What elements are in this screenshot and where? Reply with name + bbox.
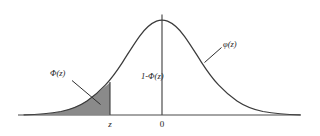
label-cdf-phi-z: Φ(z) [50, 68, 66, 78]
normal-distribution-figure: Φ(z) 1-Φ(z) φ(z) z 0 [0, 0, 320, 136]
phi-pdf-leader-line [205, 48, 222, 63]
tick-label-zero: 0 [160, 119, 165, 129]
tick-label-z: z [107, 119, 112, 129]
distribution-plot: Φ(z) 1-Φ(z) φ(z) z 0 [0, 0, 320, 136]
label-one-minus-phi-z: 1-Φ(z) [141, 71, 164, 81]
label-pdf-phi-z: φ(z) [223, 39, 237, 49]
